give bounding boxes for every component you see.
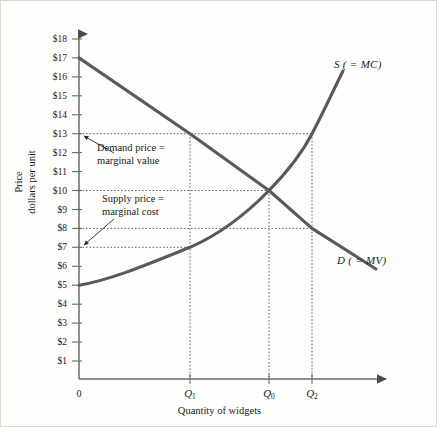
ytick-1: $1 (37, 356, 67, 366)
ytick-17: $17 (37, 53, 67, 63)
supply-price-annotation: Supply price = marginal cost (102, 193, 164, 218)
ytick-6: $6 (37, 261, 67, 271)
y-axis-title-line1: Price (12, 127, 25, 237)
xtick-q2-letter: Q (306, 387, 314, 399)
xtick-q2-subscript: 2 (314, 392, 318, 401)
xtick-q1-letter: Q (184, 387, 192, 399)
supply-demand-figure: $18 $17 $16 $15 $14 $13 $12 $11 $10 $9 $… (0, 0, 437, 427)
x-axis-title: Quantity of widgets (1, 405, 437, 416)
supply-price-annotation-line1: Supply price = (102, 193, 164, 206)
xtick-q0-subscript: 0 (271, 392, 275, 401)
ytick-18: $18 (37, 34, 67, 44)
y-tick-marks (72, 39, 82, 361)
y-axis-title: Price dollars per unit (12, 127, 38, 237)
ytick-3: $3 (37, 318, 67, 328)
demand-price-annotation: Demand price = marginal value (97, 142, 165, 167)
demand-price-annotation-line2: marginal value (97, 155, 165, 168)
ytick-16: $16 (37, 72, 67, 82)
xtick-q2: Q2 (301, 387, 323, 403)
ytick-13: $13 (37, 129, 67, 139)
xtick-q0-letter: Q (263, 387, 271, 399)
xtick-q1-subscript: 1 (192, 392, 196, 401)
ytick-9: $9 (37, 205, 67, 215)
ytick-5: $5 (37, 280, 67, 290)
xtick-q0: Q0 (258, 387, 280, 403)
demand-price-annotation-line1: Demand price = (97, 142, 165, 155)
ytick-15: $15 (37, 91, 67, 101)
ytick-7: $7 (37, 242, 67, 252)
ytick-4: $4 (37, 299, 67, 309)
xtick-q1: Q1 (179, 387, 201, 403)
ytick-12: $12 (37, 148, 67, 158)
ytick-14: $14 (37, 110, 67, 120)
supply-annotation-arrow (84, 219, 114, 245)
ytick-2: $2 (37, 337, 67, 347)
supply-price-annotation-line2: marginal cost (102, 206, 164, 219)
demand-curve-label: D ( = MV) (337, 254, 387, 266)
supply-curve-label: S ( = MC) (334, 58, 382, 70)
ytick-8: $8 (37, 223, 67, 233)
supply-curve (79, 71, 343, 285)
ytick-11: $11 (37, 167, 67, 177)
guide-lines (79, 134, 312, 377)
y-axis-title-line2: dollars per unit (25, 127, 38, 237)
ytick-10: $10 (37, 186, 67, 196)
xtick-origin: 0 (71, 388, 87, 400)
